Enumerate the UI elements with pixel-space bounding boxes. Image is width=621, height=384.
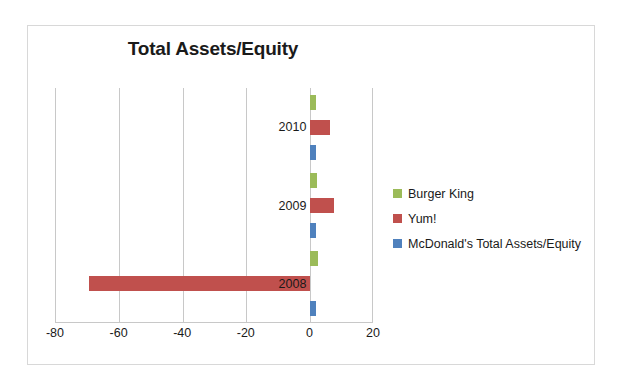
bar-2009-yum[interactable] [310, 198, 334, 213]
legend-item-label: Burger King [408, 187, 474, 201]
chart-legend: Burger KingYum!McDonald's Total Assets/E… [393, 181, 593, 256]
legend-item-label: McDonald's Total Assets/Equity [408, 237, 581, 251]
x-tick-label-0: 0 [306, 326, 313, 340]
x-tick-label--80: -80 [46, 326, 64, 340]
bar-2009-burger-king[interactable] [310, 173, 317, 188]
bar-2010-burger-king[interactable] [310, 95, 315, 110]
category-label-2009: 2009 [248, 199, 306, 213]
legend-item[interactable]: Yum! [393, 206, 593, 231]
x-tick-label-20: 20 [366, 326, 380, 340]
x-tick-label--20: -20 [237, 326, 255, 340]
bar-2010-mcdonald-s-total-assets-equity[interactable] [310, 145, 315, 160]
chart-title: Total Assets/Equity [28, 38, 398, 60]
x-tick-label--60: -60 [110, 326, 128, 340]
category-label-2010: 2010 [248, 120, 306, 134]
legend-item[interactable]: McDonald's Total Assets/Equity [393, 231, 593, 256]
x-axis-tick-labels: -80-60-40-20020 [55, 326, 373, 348]
gridline-20 [374, 88, 375, 322]
legend-swatch-icon [393, 189, 402, 198]
chart-frame: Total Assets/Equity 201020092008 -80-60-… [27, 25, 595, 365]
bar-2009-mcdonald-s-total-assets-equity[interactable] [310, 223, 315, 238]
x-tick-label--40: -40 [173, 326, 191, 340]
bar-2010-yum[interactable] [310, 120, 330, 135]
bar-2008-burger-king[interactable] [310, 251, 318, 266]
legend-swatch-icon [393, 214, 402, 223]
legend-swatch-icon [393, 239, 402, 248]
bar-2008-mcdonald-s-total-assets-equity[interactable] [310, 301, 316, 316]
legend-item-label: Yum! [408, 212, 437, 226]
category-label-2008: 2008 [248, 277, 306, 291]
legend-item[interactable]: Burger King [393, 181, 593, 206]
gridline--80 [56, 88, 57, 322]
plot-area: 201020092008 [55, 88, 373, 323]
